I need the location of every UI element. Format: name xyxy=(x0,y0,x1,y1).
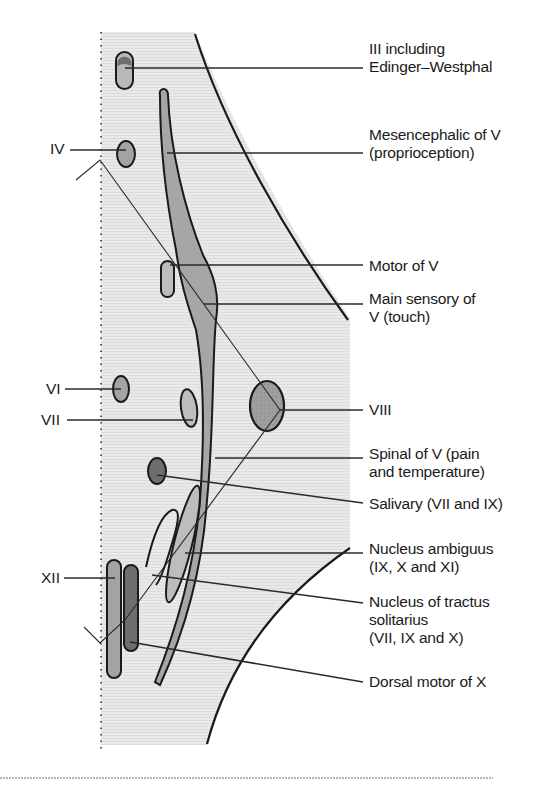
label-salivary: Salivary (VII and IX) xyxy=(369,495,503,513)
label-vii: VII xyxy=(41,411,60,429)
label-iv: IV xyxy=(50,140,65,158)
nucleus-salivary xyxy=(148,458,166,484)
nucleus-viii xyxy=(250,381,284,431)
nucleus-iv xyxy=(117,141,135,167)
nucleus-dorsal-motor-x xyxy=(124,565,138,651)
label-motor-v: Motor of V xyxy=(369,257,439,275)
label-xii: XII xyxy=(41,569,60,587)
nucleus-motor-v xyxy=(161,261,174,297)
label-dorsal-motor-x: Dorsal motor of X xyxy=(369,673,486,691)
label-iii-edinger-westphal: III including Edinger–Westphal xyxy=(369,40,492,76)
label-nucleus-tractus-solitarius: Nucleus of tractus solitarius (VII, IX a… xyxy=(369,593,489,647)
label-vi: VI xyxy=(46,380,61,398)
label-spinal-v: Spinal of V (pain and temperature) xyxy=(369,445,485,481)
label-nucleus-ambiguus: Nucleus ambiguus (IX, X and XI) xyxy=(369,540,493,576)
label-mesencephalic-v: Mesencephalic of V (proprioception) xyxy=(369,126,501,162)
label-main-sensory-v: Main sensory of V (touch) xyxy=(369,290,475,326)
label-viii: VIII xyxy=(369,401,391,419)
